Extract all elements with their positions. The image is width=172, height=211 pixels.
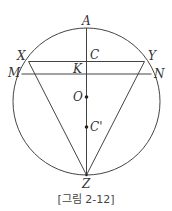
label-O: O [73,90,83,104]
label-X: X [16,49,26,63]
label-M: M [7,66,21,80]
point-C-prime [85,125,89,129]
label-Z: Z [81,177,91,191]
label-C-prime: C' [90,120,102,134]
figure-caption: [그림 2-12] [57,193,114,206]
point-Z [85,174,87,176]
label-K: K [72,62,83,76]
segment-XZ [29,62,87,176]
segment-YZ [87,62,145,176]
label-A: A [81,14,91,28]
label-C: C [90,48,99,62]
label-N: N [153,67,165,81]
geometry-figure: A X Y C K M N O C' Z [그림 2-12] [0,0,172,211]
label-Y: Y [148,49,157,63]
point-O [85,95,89,99]
